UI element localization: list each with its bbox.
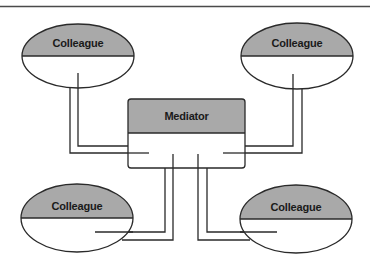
mediator-body-fill <box>128 133 245 168</box>
mediator-pattern-diagram: Mediator Colleague Colleague Colleague <box>0 0 370 268</box>
colleague-label: Colleague <box>53 37 104 49</box>
colleague-bottom-right: Colleague <box>240 185 352 253</box>
colleague-bottom-left: Colleague <box>21 184 133 252</box>
colleague-label: Colleague <box>272 37 323 49</box>
colleague-label: Colleague <box>52 200 103 212</box>
mediator-label: Mediator <box>164 110 209 122</box>
mediator-box: Mediator <box>128 99 245 168</box>
colleague-top-left: Colleague <box>22 24 134 88</box>
colleague-top-right: Colleague <box>241 23 353 89</box>
colleague-label: Colleague <box>271 201 322 213</box>
